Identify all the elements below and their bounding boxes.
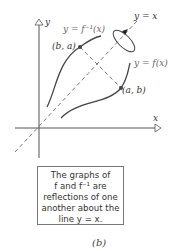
caption-line-4: another about the (38, 203, 123, 214)
subfigure-label: (b) (92, 237, 106, 248)
inverse-function-label: y = f⁻¹(x) (63, 25, 105, 34)
caption-line-2: f and f⁻¹ are (38, 181, 123, 192)
reflection-segment (80, 47, 121, 88)
y-axis-label: y (45, 18, 50, 27)
y-axis-arrow-icon (35, 19, 43, 25)
x-axis-arrow-icon (155, 124, 161, 132)
identity-line-label: y = x (134, 12, 157, 21)
function-curve (61, 63, 130, 118)
point-b-a-marker (78, 45, 82, 49)
x-axis-label: x (153, 114, 158, 123)
function-label: y = f(x) (134, 59, 168, 68)
point-a-b-label: (a, b) (122, 86, 146, 95)
caption-line-3: reflections of one (38, 192, 123, 203)
caption-box: The graphs of f and f⁻¹ are reflections … (37, 166, 124, 225)
caption-line-1: The graphs of (38, 170, 123, 181)
caption-line-5: line y = x. (38, 214, 123, 225)
identity-line (15, 20, 138, 152)
point-b-a-label: (b, a) (52, 42, 76, 51)
